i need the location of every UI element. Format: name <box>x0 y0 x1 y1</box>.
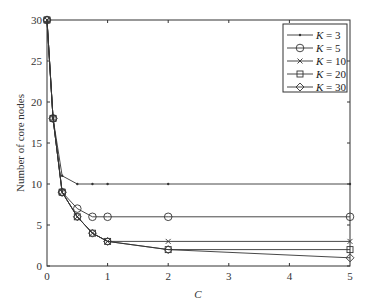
legend: K = 3K = 5K = 10K = 20K = 30 <box>283 24 347 93</box>
svg-text:25: 25 <box>31 55 43 67</box>
svg-text:5: 5 <box>37 219 43 231</box>
legend-label: K = 10 <box>315 55 347 67</box>
svg-text:0: 0 <box>44 270 50 282</box>
dot-marker-icon <box>91 183 93 185</box>
x-tick-labels: 0 1 2 3 4 5 <box>44 270 353 282</box>
svg-text:20: 20 <box>31 96 43 108</box>
svg-text:30: 30 <box>31 14 43 26</box>
svg-text:2: 2 <box>165 270 171 282</box>
x-axis-label: C <box>194 288 202 300</box>
svg-text:4: 4 <box>287 270 293 282</box>
dot-marker-icon <box>349 183 351 185</box>
legend-label: K = 30 <box>315 81 347 93</box>
dot-marker-icon <box>167 183 169 185</box>
y-tick-labels: 0 5 10 15 20 25 30 <box>31 14 43 272</box>
dot-marker-icon <box>106 183 108 185</box>
svg-text:0: 0 <box>37 260 43 272</box>
line-chart: 0 5 10 15 20 25 30 0 1 2 3 4 5 C Number … <box>0 0 370 308</box>
svg-text:5: 5 <box>347 270 353 282</box>
legend-label: K = 20 <box>315 68 347 80</box>
y-axis-label: Number of core nodes <box>14 94 26 192</box>
dot-marker-icon <box>61 175 63 177</box>
dot-marker-icon <box>76 183 78 185</box>
svg-text:3: 3 <box>226 270 232 282</box>
svg-text:10: 10 <box>31 178 43 190</box>
legend-label: K = 5 <box>315 42 341 54</box>
dot-marker-icon <box>299 34 301 36</box>
legend-label: K = 3 <box>315 29 341 41</box>
svg-text:15: 15 <box>31 137 43 149</box>
svg-text:1: 1 <box>105 270 111 282</box>
